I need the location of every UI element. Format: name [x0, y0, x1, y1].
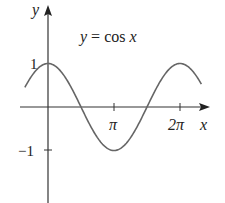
- tick-label-2pi: 2π: [168, 116, 185, 133]
- equation-label: y = cos x: [78, 28, 137, 46]
- cosine-plot: y x y = cos x 1 −1 π 2π: [0, 0, 225, 203]
- tick-label-neg-one: −1: [18, 143, 34, 159]
- x-axis-label: x: [199, 116, 207, 133]
- tick-label-one: 1: [30, 56, 38, 72]
- y-axis-label: y: [30, 1, 40, 19]
- tick-label-pi: π: [109, 116, 118, 133]
